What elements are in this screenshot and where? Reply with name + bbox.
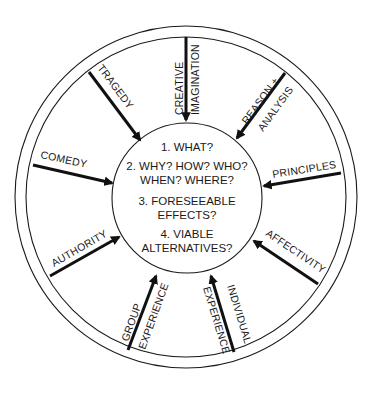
arrow-comedy [33, 165, 112, 183]
question-alternatives-line2: ALTERNATIVES? [142, 242, 233, 254]
question-alternatives-line1: 4. VIABLE [160, 228, 213, 240]
question-why-line1: 2. WHY? HOW? WHO? [126, 160, 247, 172]
label-comedy: COMEDY [40, 148, 89, 170]
question-what: 1. WHAT? [161, 141, 213, 153]
center-questions: 1. WHAT? 2. WHY? HOW? WHO? WHEN? WHERE? … [126, 141, 247, 254]
label-imagination: IMAGINATION [189, 44, 201, 115]
question-why-line2: WHEN? WHERE? [140, 174, 234, 186]
question-effects-line1: 3. FORESEEABLE [138, 195, 235, 207]
question-effects-line2: EFFECTS? [158, 209, 217, 221]
moral-discernment-wheel: 1. WHAT? 2. WHY? HOW? WHO? WHEN? WHERE? … [0, 0, 372, 395]
label-creative: CREATIVE [173, 62, 185, 115]
